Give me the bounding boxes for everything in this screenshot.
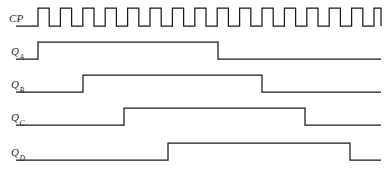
waveform-qd [16, 143, 381, 160]
wave-label-cp: CP [9, 12, 23, 24]
waveform-qa [16, 42, 381, 59]
wave-label-main-qb: Q [11, 78, 19, 90]
waveform-group [16, 8, 381, 160]
wave-label-sub-qb: B [19, 86, 24, 95]
wave-label-qd: QD [11, 146, 25, 161]
wave-label-qa: QA [11, 45, 24, 60]
waveform-qc [16, 108, 381, 125]
timing-diagram-page: CPQAQBQCQD [0, 0, 387, 178]
wave-label-main-cp: CP [9, 12, 23, 24]
wave-label-sub-qd: D [19, 154, 25, 163]
wave-label-sub-qa: A [19, 53, 24, 62]
wave-label-qc: QC [11, 111, 24, 126]
waveform-qb [16, 75, 381, 92]
wave-label-qb: QB [11, 78, 24, 93]
wave-label-main-qa: Q [11, 45, 19, 57]
waveform-canvas [0, 0, 387, 178]
wave-label-sub-qc: C [19, 119, 24, 128]
wave-label-main-qd: Q [11, 146, 19, 158]
wave-label-main-qc: Q [11, 111, 19, 123]
waveform-cp [16, 8, 381, 26]
